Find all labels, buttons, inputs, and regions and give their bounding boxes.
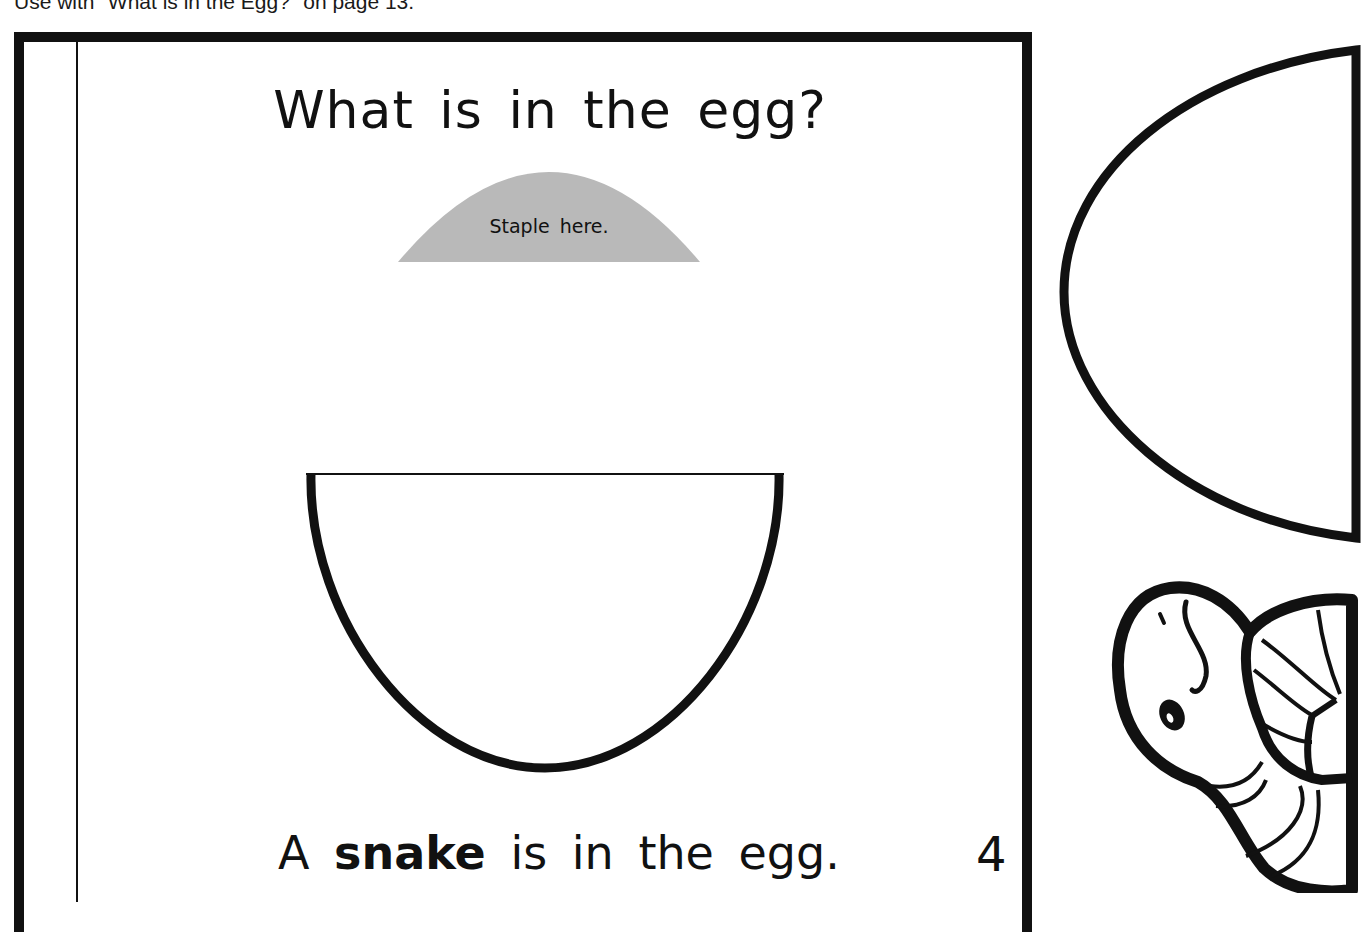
egg-bottom-half bbox=[306, 474, 784, 768]
snake-cutout[interactable] bbox=[1118, 587, 1352, 893]
sentence-suffix: is in the egg. bbox=[510, 826, 839, 880]
page-number: 4 bbox=[976, 826, 1007, 882]
page-sentence: A snake is in the egg. bbox=[278, 826, 840, 880]
staple-here-label: Staple here. bbox=[398, 215, 700, 237]
sentence-bold-word: snake bbox=[334, 826, 486, 880]
egg-top-cutout[interactable] bbox=[1064, 50, 1356, 538]
sentence-prefix: A bbox=[278, 826, 309, 880]
